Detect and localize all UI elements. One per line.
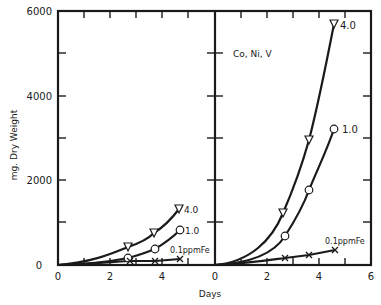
- y-tick-6000: 6000: [27, 6, 52, 17]
- circle-marker: [281, 232, 289, 240]
- left-x-tick-2: 2: [107, 271, 113, 282]
- left-curves: [58, 209, 180, 265]
- right-label-1.0: 1.0: [342, 124, 358, 135]
- left-x-tick-0: 0: [55, 271, 61, 282]
- circle-marker: [151, 245, 159, 253]
- right-x-tick-6: 6: [368, 271, 374, 282]
- circle-marker: [176, 226, 184, 234]
- circle-marker: [330, 125, 338, 133]
- y-tick-4000: 4000: [27, 91, 52, 102]
- y-axis-label: mg. Dry Weight: [9, 109, 19, 180]
- left-label-4.0: 4.0: [184, 205, 199, 215]
- triangle-marker: [330, 20, 338, 28]
- y-tick-0: 0: [36, 260, 42, 271]
- right-label-4.0: 4.0: [340, 20, 356, 31]
- right-curves: [215, 24, 335, 265]
- growth-chart: 6000 4000 2000 0 0 2 4 0 2 4 6 Days mg. …: [0, 0, 381, 305]
- right-x-tick-2: 2: [264, 271, 270, 282]
- triangle-marker: [305, 136, 313, 144]
- left-x-tick-4: 4: [159, 271, 165, 282]
- left-label-1.0: 1.0: [185, 226, 200, 236]
- right-x-markers: [282, 247, 338, 261]
- y-tick-2000: 2000: [27, 175, 52, 186]
- right-x-tick-0: 0: [212, 271, 218, 282]
- x-axis-label: Days: [199, 289, 222, 299]
- circle-marker: [305, 186, 313, 194]
- right-label-0.1: 0.1ppmFe: [325, 237, 365, 246]
- left-curve-4.0: [58, 209, 179, 265]
- right-panel-annotation: Co, Ni, V: [233, 49, 272, 59]
- triangle-marker: [279, 209, 287, 217]
- right-x-tick-4: 4: [316, 271, 322, 282]
- right-curve-1.0: [215, 129, 334, 265]
- left-label-0.1: 0.1ppmFe: [170, 246, 210, 255]
- right-curve-4.0: [215, 24, 334, 265]
